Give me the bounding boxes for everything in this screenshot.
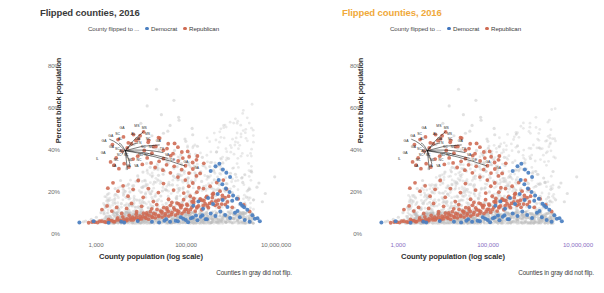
panel-right: Flipped counties, 2016 County flipped to… — [302, 0, 604, 293]
svg-text:GA: GA — [496, 166, 502, 170]
chart-title-left: Flipped counties, 2016 — [40, 7, 140, 18]
y-tick-40: 40% — [30, 146, 60, 153]
x-tick-100000: 100,000 — [175, 241, 197, 248]
y-tick-80: 80% — [30, 62, 60, 69]
svg-text:GA: GA — [404, 139, 410, 143]
legend-right: County flipped to ... Democrat Republica… — [390, 25, 521, 32]
svg-text:TX: TX — [160, 147, 165, 151]
y-tick-40: 40% — [332, 146, 362, 153]
panel-left: Flipped counties, 2016 County flipped to… — [0, 0, 302, 293]
svg-text:GA: GA — [108, 134, 114, 138]
svg-text:MS: MS — [145, 132, 151, 136]
svg-text:VA: VA — [428, 164, 433, 168]
svg-text:NC: NC — [149, 145, 154, 149]
svg-text:SC: SC — [115, 132, 120, 136]
svg-text:NC: NC — [439, 158, 444, 162]
x-tick-1000: 1,000 — [391, 241, 406, 248]
democrat-swatch-icon — [447, 27, 450, 30]
svg-text:NC: NC — [416, 158, 421, 162]
legend-caption: County flipped to ... — [88, 25, 139, 32]
svg-text:GA: GA — [183, 160, 189, 164]
svg-text:GA: GA — [156, 139, 162, 143]
svg-text:SC: SC — [419, 153, 424, 157]
legend-item-democrat[interactable]: Democrat — [447, 25, 479, 32]
svg-text:NC: NC — [451, 145, 456, 149]
y-tick-20: 20% — [332, 188, 362, 195]
democrat-swatch-icon — [145, 27, 148, 30]
svg-text:MS: MS — [134, 124, 140, 128]
y-tick-60: 60% — [30, 104, 60, 111]
svg-text:VA: VA — [134, 164, 139, 168]
y-tick-60: 60% — [332, 104, 362, 111]
svg-text:GA: GA — [485, 160, 491, 164]
legend-left: County flipped to ... Democrat Republica… — [88, 25, 219, 32]
dual-scatter-figure: Flipped counties, 2016 County flipped to… — [0, 0, 604, 293]
scatter-plot-left: GAGASCALGAMSMSMSALGAGASCALTNSCGASCNCTXGA… — [62, 55, 290, 231]
legend-label-republican: Republican — [189, 25, 219, 32]
x-tick-1000: 1,000 — [89, 241, 104, 248]
republican-swatch-icon — [485, 27, 488, 30]
svg-text:TX: TX — [462, 147, 467, 151]
svg-text:GA: GA — [120, 126, 126, 130]
y-tick-0: 0% — [30, 230, 60, 237]
legend-label-republican: Republican — [491, 25, 521, 32]
svg-text:VA: VA — [165, 153, 170, 157]
legend-item-democrat[interactable]: Democrat — [145, 25, 177, 32]
svg-text:GA: GA — [101, 151, 107, 155]
svg-text:NC: NC — [128, 158, 133, 162]
x-tick-100000: 100,000 — [477, 241, 499, 248]
legend-item-republican[interactable]: Republican — [183, 25, 219, 32]
x-axis-label-right: County population (log scale) — [302, 252, 604, 261]
svg-text:IL: IL — [96, 157, 99, 161]
svg-text:SC: SC — [417, 132, 422, 136]
svg-text:SC: SC — [146, 137, 151, 141]
svg-text:GA: GA — [458, 139, 464, 143]
svg-text:VA: VA — [436, 164, 441, 168]
svg-text:NC: NC — [430, 158, 435, 162]
svg-text:NC: NC — [137, 158, 142, 162]
svg-text:GA: GA — [194, 166, 200, 170]
x-tick-10000000: 10,000,000 — [261, 241, 291, 248]
svg-text:SC: SC — [141, 145, 146, 149]
svg-text:VA: VA — [467, 153, 472, 157]
svg-text:SC: SC — [117, 153, 122, 157]
footnote-left: Counties in gray did not flip. — [216, 269, 292, 276]
legend-item-republican[interactable]: Republican — [485, 25, 521, 32]
chart-title-right: Flipped counties, 2016 — [342, 7, 442, 18]
legend-label-democrat: Democrat — [151, 25, 177, 32]
y-tick-80: 80% — [332, 62, 362, 69]
svg-text:SC: SC — [448, 137, 453, 141]
svg-text:MS: MS — [444, 126, 450, 130]
scatter-plot-right: GAGASCALGAMSMSMSALGAGASCALTNSCGASCNCTXGA… — [364, 55, 592, 231]
legend-caption: County flipped to ... — [390, 25, 441, 32]
svg-text:GA: GA — [102, 139, 108, 143]
footnote-right: Counties in gray did not flip. — [518, 269, 594, 276]
svg-text:MS: MS — [447, 132, 453, 136]
y-tick-20: 20% — [30, 188, 60, 195]
svg-text:AL: AL — [118, 137, 122, 141]
republican-swatch-icon — [183, 27, 186, 30]
svg-text:AL: AL — [131, 132, 135, 136]
svg-text:GA: GA — [411, 145, 417, 149]
svg-text:MS: MS — [436, 124, 442, 128]
svg-text:AL: AL — [420, 137, 424, 141]
svg-text:SC: SC — [443, 145, 448, 149]
x-axis-label-left: County population (log scale) — [0, 252, 302, 261]
svg-text:VA: VA — [126, 164, 131, 168]
svg-text:GA: GA — [109, 145, 115, 149]
svg-text:NC: NC — [114, 158, 119, 162]
svg-text:GA: GA — [422, 126, 428, 130]
legend-label-democrat: Democrat — [453, 25, 479, 32]
svg-text:AL: AL — [433, 132, 437, 136]
svg-text:LA: LA — [112, 164, 117, 168]
svg-text:LA: LA — [414, 164, 419, 168]
svg-text:GA: GA — [410, 134, 416, 138]
svg-text:MS: MS — [142, 126, 148, 130]
x-tick-10000000: 10,000,000 — [563, 241, 593, 248]
svg-text:IL: IL — [398, 157, 401, 161]
svg-text:GA: GA — [403, 151, 409, 155]
y-tick-0: 0% — [332, 230, 362, 237]
